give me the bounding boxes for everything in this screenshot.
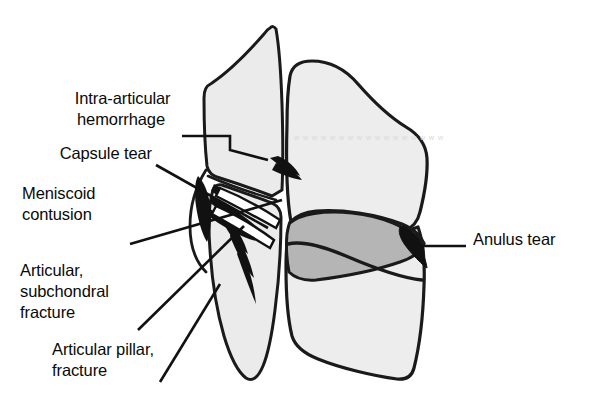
label-line: Intra-articular <box>75 89 171 107</box>
label-line: Capsule tear <box>60 144 153 162</box>
scan-artifact-text: w w w w w w w w w w w w w w w w w <box>293 134 444 141</box>
label-line: subchondral <box>20 282 109 300</box>
label-articular-subchondral-fracture: Articular, subchondral fracture <box>20 261 113 321</box>
label-line: Anulus tear <box>473 230 556 248</box>
label-line: fracture <box>52 361 107 379</box>
label-line: fracture <box>20 303 75 321</box>
figure-root: w w w w w w w w w w w w w w w w w <box>0 0 605 419</box>
vertebral-bodies: w w w w w w w w w w w w w w w w w <box>286 61 444 379</box>
anatomical-diagram: w w w w w w w w w w w w w w w w w <box>0 0 605 419</box>
label-intra-articular-hemorrhage: Intra-articular hemorrhage <box>75 89 175 128</box>
label-capsule-tear: Capsule tear <box>60 144 153 162</box>
label-line: Articular pillar, <box>52 340 154 358</box>
label-meniscoid-contusion: Meniscoid contusion <box>22 184 100 223</box>
label-articular-pillar-fracture: Articular pillar, fracture <box>52 340 158 379</box>
label-anulus-tear: Anulus tear <box>473 230 556 248</box>
label-line: contusion <box>22 205 92 223</box>
label-line: hemorrhage <box>77 110 165 128</box>
label-line: Articular, <box>20 261 83 279</box>
superior-articular-pillar <box>204 27 283 196</box>
meniscoid-contusion-lesion <box>195 176 211 242</box>
label-line: Meniscoid <box>22 184 95 202</box>
